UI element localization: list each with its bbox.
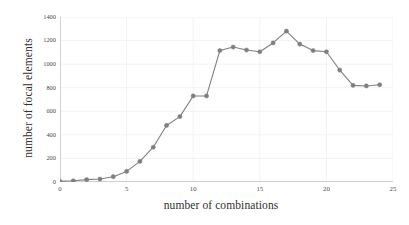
series-line bbox=[60, 31, 380, 181]
data-point bbox=[60, 179, 62, 182]
x-tick-label: 5 bbox=[112, 186, 142, 193]
plot-area bbox=[60, 17, 393, 182]
data-point bbox=[98, 177, 102, 181]
y-tick-label: 0 bbox=[30, 179, 56, 185]
y-tick-label: 1200 bbox=[30, 37, 56, 43]
x-axis-title: number of combinations bbox=[56, 199, 386, 211]
data-point bbox=[111, 175, 115, 179]
data-point bbox=[338, 68, 342, 72]
data-point bbox=[258, 50, 262, 54]
data-point bbox=[178, 114, 182, 118]
x-tick-label: 15 bbox=[245, 186, 275, 193]
y-tick-label: 800 bbox=[30, 85, 56, 91]
data-point bbox=[231, 45, 235, 49]
data-point bbox=[125, 169, 129, 173]
data-point bbox=[138, 159, 142, 163]
data-series-svg bbox=[60, 17, 393, 182]
x-tick-label: 25 bbox=[378, 186, 408, 193]
data-point bbox=[151, 145, 155, 149]
x-tick-label: 20 bbox=[311, 186, 341, 193]
data-point bbox=[311, 48, 315, 52]
y-tick-label: 1000 bbox=[30, 61, 56, 67]
data-point bbox=[164, 123, 168, 127]
data-point bbox=[351, 83, 355, 87]
data-point bbox=[191, 94, 195, 98]
data-point bbox=[85, 178, 89, 182]
x-axis-tick-labels: 0510152025 bbox=[60, 186, 400, 198]
data-point bbox=[324, 50, 328, 54]
data-point bbox=[298, 42, 302, 46]
data-point bbox=[364, 84, 368, 88]
chart-figure: number of focal elements 020040060080010… bbox=[0, 0, 409, 225]
y-tick-label: 600 bbox=[30, 108, 56, 114]
x-tick-label: 0 bbox=[45, 186, 75, 193]
y-tick-label: 200 bbox=[30, 155, 56, 161]
x-tick-label: 10 bbox=[178, 186, 208, 193]
data-point bbox=[271, 41, 275, 45]
data-point bbox=[244, 48, 248, 52]
data-point bbox=[71, 179, 75, 182]
y-tick-label: 1400 bbox=[30, 14, 56, 20]
y-tick-label: 400 bbox=[30, 132, 56, 138]
data-point bbox=[204, 94, 208, 98]
data-point bbox=[284, 29, 288, 33]
data-point bbox=[218, 48, 222, 52]
data-point bbox=[378, 83, 382, 87]
